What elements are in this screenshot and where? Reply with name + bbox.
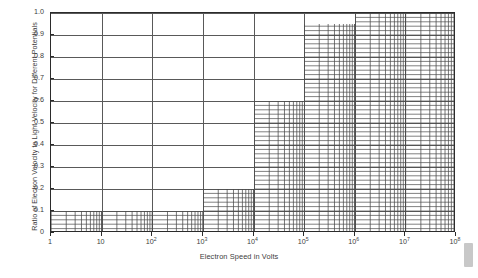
x-tick-label: 107 (399, 237, 410, 246)
x-tick-label: 106 (348, 237, 359, 246)
step-block-step-0p1 (51, 211, 203, 232)
x-tick-mark (404, 232, 405, 236)
y-tick-mark (50, 34, 54, 35)
chart-figure: 00.10.20.30.40.50.60.70.80.91.0 Ratio of… (0, 0, 478, 278)
x-tick-label: 104 (247, 237, 258, 246)
y-tick-mark (50, 166, 54, 167)
step-block-step-0p2 (203, 189, 254, 232)
x-tick-label: 105 (298, 237, 309, 246)
y-tick-mark (50, 210, 54, 211)
x-tick-mark (151, 232, 152, 236)
x-tick-mark (101, 232, 102, 236)
y-tick-mark (50, 78, 54, 79)
step-block-step-1p0 (355, 13, 455, 232)
x-tick-label: 103 (196, 237, 207, 246)
x-tick-label: 102 (146, 237, 157, 246)
x-tick-label: 10 (97, 237, 105, 246)
x-tick-mark (303, 232, 304, 236)
step-block-step-0p6 (254, 101, 305, 232)
y-tick-mark (50, 100, 54, 101)
x-tick-label: 1 (48, 237, 52, 246)
x-tick-mark (354, 232, 355, 236)
y-tick-mark (50, 144, 54, 145)
x-tick-mark (455, 232, 456, 236)
y-tick-mark (50, 12, 54, 13)
y-axis-title: Ratio of Electron Velocity to Light Velo… (30, 13, 39, 241)
y-tick-mark (50, 122, 54, 123)
x-tick-mark (253, 232, 254, 236)
x-tick-label: 108 (450, 237, 461, 246)
x-axis-title: Electron Speed in Volts (0, 252, 478, 261)
x-tick-mark (50, 232, 51, 236)
step-block-step-0p95 (304, 24, 355, 232)
x-tick-mark (202, 232, 203, 236)
y-tick-mark (50, 56, 54, 57)
plot-area (50, 12, 455, 232)
scrollbar-thumb[interactable] (464, 243, 473, 267)
gridline-vertical (152, 13, 153, 231)
y-tick-mark (50, 188, 54, 189)
gridline-vertical (102, 13, 103, 231)
